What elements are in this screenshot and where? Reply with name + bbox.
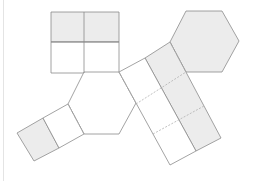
prism-net-diagram (0, 0, 253, 181)
top-square-bottom (51, 42, 119, 73)
top-square-shaded-top (51, 12, 119, 42)
